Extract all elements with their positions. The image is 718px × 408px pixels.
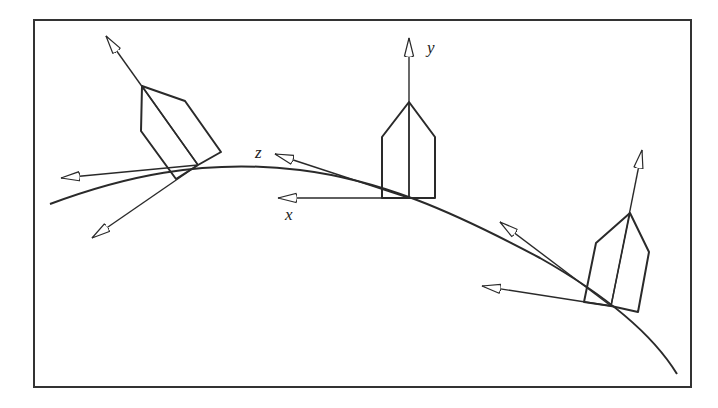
axis-arrow-tangent-icon (500, 222, 611, 306)
house-icon (141, 86, 221, 179)
figure-border (34, 20, 691, 387)
moving-frames-diagram: y x z (0, 0, 718, 408)
axis-label-x: x (284, 205, 293, 224)
frame-left (61, 36, 221, 238)
frame-right (482, 150, 649, 312)
house-icon (584, 213, 649, 312)
frame-middle (275, 38, 435, 198)
axis-label-y: y (425, 38, 435, 57)
axis-arrow-z-icon (275, 154, 409, 198)
axis-label-z: z (254, 143, 262, 162)
axis-arrow-left-icon (482, 286, 611, 306)
